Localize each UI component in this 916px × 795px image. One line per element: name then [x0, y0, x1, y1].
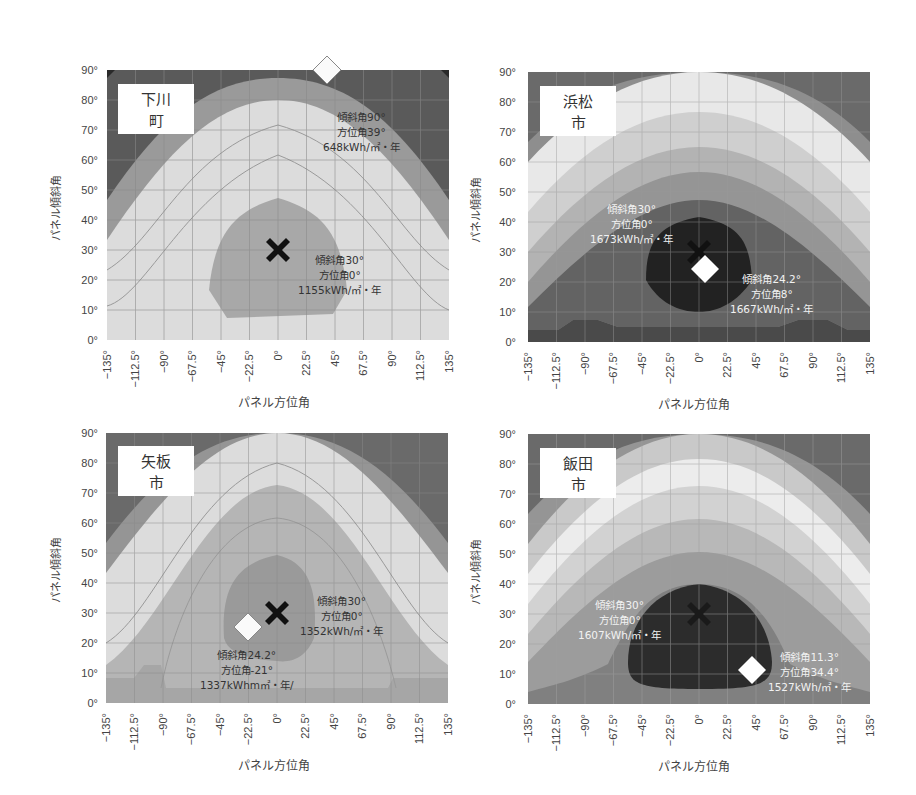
chart-panel-hamamatsu: 浜松市 傾斜角30°方位角0°1673kWh/㎡・年 傾斜角24.2°方位角8°…: [462, 50, 902, 430]
x-annotation: 傾斜角30°方位角0°1352kWh/㎡・年: [300, 594, 383, 639]
y-axis-label: パネル傾斜角: [467, 177, 483, 243]
y-axis-label: パネル傾斜角: [467, 539, 483, 605]
chart-panel-yaita: 矢板市 傾斜角30°方位角0°1352kWh/㎡・年 傾斜角24.2°方位角-2…: [40, 412, 480, 792]
x-annotation: 傾斜角30°方位角0°1155kWh/㎡・年: [298, 253, 381, 298]
diamond-annotation: 傾斜角11.3°方位角34.4°1527kWh/㎡・年: [768, 650, 851, 695]
chart-panel-shimokawa: 下川町 傾斜角90°方位角39°648kWh/㎡・年 傾斜角30°方位角0°11…: [40, 50, 480, 430]
x-axis-label: パネル方位角: [658, 395, 730, 412]
y-axis-label: パネル傾斜角: [47, 537, 63, 603]
city-label: 矢板市: [118, 446, 194, 496]
city-label: 浜松市: [540, 86, 616, 136]
x-axis-label: パネル方位角: [658, 757, 730, 774]
x-axis-label: パネル方位角: [238, 393, 310, 410]
y-axis-label: パネル傾斜角: [47, 175, 63, 241]
city-label: 飯田市: [540, 448, 616, 498]
city-label: 下川町: [118, 84, 194, 134]
x-annotation: 傾斜角30°方位角0°1607kWh/㎡・年: [578, 598, 661, 643]
x-annotation: 傾斜角30°方位角0°1673kWh/㎡・年: [590, 202, 673, 247]
diamond-annotation: 傾斜角90°方位角39°648kWh/㎡・年: [323, 110, 400, 155]
x-axis-label: パネル方位角: [238, 756, 310, 773]
diamond-annotation: 傾斜角24.2°方位角-21°1337kWhm㎡・年/: [200, 648, 294, 693]
chart-panel-iida: 飯田市 傾斜角30°方位角0°1607kWh/㎡・年 傾斜角11.3°方位角34…: [462, 412, 902, 792]
diamond-annotation: 傾斜角24.2°方位角8°1667kWh/㎡・年: [730, 272, 813, 317]
